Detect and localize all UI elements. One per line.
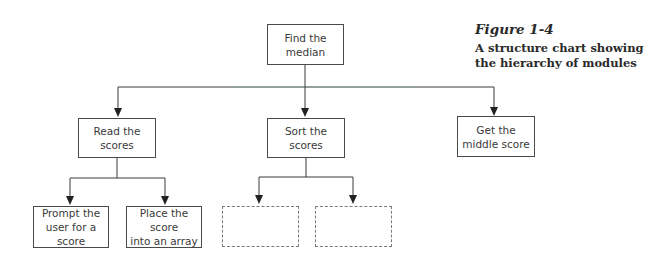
module-sort-scores: Sort the scores: [267, 118, 345, 158]
module-get-middle-score: Get the middle score: [457, 116, 535, 157]
module-place-score: Place the score into an array: [126, 206, 202, 248]
figure-description: A structure chart showing the hierarchy …: [475, 41, 644, 71]
module-sort-placeholder-1: [222, 206, 299, 247]
module-prompt-user: Prompt the user for a score: [33, 206, 109, 248]
module-sort-placeholder-2: [315, 206, 392, 247]
module-find-median: Find the median: [267, 24, 344, 65]
module-read-scores: Read the scores: [78, 118, 156, 158]
figure-caption: Figure 1-4 A structure chart showing the…: [475, 20, 644, 71]
structure-chart: Find the median Read the scores Sort the…: [0, 0, 652, 260]
figure-label: Figure 1-4: [475, 20, 644, 38]
